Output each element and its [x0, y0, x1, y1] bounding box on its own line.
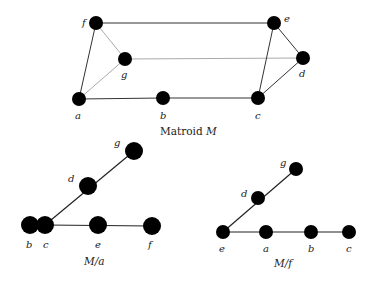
edge-g-d	[125, 58, 303, 59]
node-f	[89, 16, 103, 30]
node-c	[251, 91, 265, 105]
node-label-b: b	[26, 239, 32, 250]
node-label-g: g	[280, 157, 286, 168]
node-d	[79, 177, 97, 195]
caption-matroid-m: Matroid M	[160, 125, 217, 137]
node-label-e: e	[219, 243, 225, 254]
node-label-a: a	[75, 110, 81, 121]
edge-a-b	[79, 98, 163, 99]
node-a	[259, 225, 273, 239]
edge-e-c	[258, 23, 274, 98]
contraction-m-a-graph: gdbcef	[21, 137, 161, 250]
node-e	[89, 216, 107, 234]
node-g	[289, 162, 303, 176]
node-e	[216, 225, 230, 239]
matroid-diagram: fegdabc gdbcef gdeabc Matroid M M/a M/f	[0, 0, 378, 282]
node-label-c: c	[255, 110, 261, 121]
node-b	[156, 91, 170, 105]
node-label-e: e	[95, 239, 101, 250]
contraction-m-f-graph: gdeabc	[216, 157, 356, 254]
caption-m-contract-a: M/a	[83, 255, 105, 267]
node-e	[267, 16, 281, 30]
node-d	[251, 191, 265, 205]
node-label-f: f	[147, 239, 154, 250]
node-d	[296, 51, 310, 65]
node-a	[72, 92, 86, 106]
node-g	[125, 142, 143, 160]
node-label-e: e	[284, 13, 290, 24]
node-label-b: b	[308, 243, 314, 254]
node-label-d: d	[299, 68, 305, 79]
node-label-f: f	[81, 17, 88, 28]
node-label-d: d	[68, 173, 74, 184]
node-c	[36, 216, 54, 234]
matroid-m-graph: fegdabc	[72, 13, 310, 121]
node-label-c: c	[346, 243, 352, 254]
node-b	[304, 225, 318, 239]
edge-f-a	[79, 23, 96, 99]
node-f	[143, 217, 161, 235]
node-label-c: c	[43, 239, 49, 250]
node-label-b: b	[160, 110, 166, 121]
node-label-a: a	[263, 243, 269, 254]
node-label-d: d	[241, 188, 247, 199]
node-g	[118, 52, 132, 66]
node-label-g: g	[114, 137, 120, 148]
node-label-g: g	[121, 69, 127, 80]
node-c	[342, 225, 356, 239]
caption-m-contract-f: M/f	[273, 257, 294, 269]
edge-g-a	[79, 59, 125, 99]
